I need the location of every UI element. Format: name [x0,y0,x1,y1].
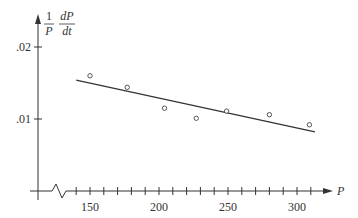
svg-text:P: P [44,24,53,38]
axis-break-icon [52,184,66,198]
svg-text:1: 1 [46,9,52,23]
data-point [88,74,92,78]
data-point [125,85,129,89]
data-point [162,106,166,110]
svg-text:dt: dt [62,24,72,38]
data-point [224,109,228,113]
data-point [267,112,271,116]
x-axis [30,184,333,198]
y-axis-label: 1 P dP dt [44,9,75,38]
y-axis-arrow-icon [35,14,41,24]
svg-text:dP: dP [60,9,74,23]
x-tick-label: 300 [288,200,306,214]
data-point [307,123,311,127]
y-tick-label: .02 [16,40,31,54]
x-axis-label: P [336,184,345,198]
x-tick-label: 200 [150,200,168,214]
x-tick-label: 250 [219,200,237,214]
x-tick-label: 150 [81,200,99,214]
data-points [88,74,312,127]
data-point [194,116,198,120]
chart: 150200250300 .01.02 P 1 P dP dt [0,0,358,218]
y-tick-label: .01 [16,112,31,126]
x-axis-arrow-icon [323,188,333,194]
fit-line [76,80,315,132]
